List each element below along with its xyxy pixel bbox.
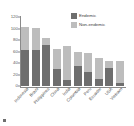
- legend-item-nonendemic: Non-endemic: [71, 22, 105, 28]
- x-axis-label-group: IndonesiaBrazilPhilippinesChinaIndiaColo…: [20, 87, 125, 125]
- legend-label-endemic: Endemic: [79, 14, 96, 18]
- bar-segment-nonendemic: [32, 28, 40, 50]
- bar-column: [42, 17, 50, 86]
- chart-legend: Endemic Non-endemic: [71, 13, 105, 31]
- bar-segment-nonendemic: [95, 58, 103, 79]
- bar-column: [116, 17, 124, 86]
- bar-segment-nonendemic: [53, 49, 61, 69]
- legend-item-endemic: Endemic: [71, 13, 105, 19]
- bar-segment-nonendemic: [21, 27, 29, 50]
- bar-segment-nonendemic: [116, 61, 124, 83]
- bar-segment-endemic: [21, 50, 29, 86]
- bar-segment-nonendemic: [74, 52, 82, 66]
- legend-swatch-endemic-icon: [71, 13, 77, 19]
- bar-segment-nonendemic: [42, 38, 50, 45]
- bar-segment-nonendemic: [105, 61, 113, 68]
- corner-marker: [3, 119, 6, 122]
- legend-swatch-nonendemic-icon: [71, 22, 77, 28]
- stacked-bar-chart: 020406080100120 IndonesiaBrazilPhilippin…: [0, 0, 134, 126]
- bar-segment-nonendemic: [84, 53, 92, 73]
- legend-label-nonendemic: Non-endemic: [79, 23, 105, 27]
- bar-column: [21, 17, 29, 86]
